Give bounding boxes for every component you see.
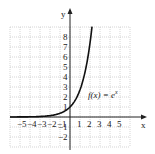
svg-text:6: 6 — [63, 52, 68, 62]
svg-text:4: 4 — [107, 119, 112, 129]
x-axis-label: x — [141, 120, 146, 130]
svg-text:2: 2 — [63, 92, 68, 102]
svg-text:4: 4 — [63, 72, 68, 82]
exponential-chart: −5−4−3−2−11234587654321−1−2 y x f(x) = e… — [0, 0, 155, 154]
svg-text:−2: −2 — [47, 119, 57, 129]
svg-text:1: 1 — [77, 119, 82, 129]
svg-text:8: 8 — [63, 32, 68, 42]
svg-text:3: 3 — [97, 119, 102, 129]
y-axis-label: y — [61, 9, 66, 19]
svg-text:1: 1 — [63, 102, 68, 112]
svg-text:−4: −4 — [27, 119, 37, 129]
svg-text:2: 2 — [87, 119, 92, 129]
svg-text:−5: −5 — [17, 119, 27, 129]
svg-text:5: 5 — [117, 119, 122, 129]
svg-text:5: 5 — [63, 62, 68, 72]
svg-text:−3: −3 — [37, 119, 47, 129]
svg-text:−2: −2 — [58, 132, 68, 142]
svg-text:7: 7 — [63, 42, 68, 52]
svg-text:3: 3 — [63, 82, 68, 92]
function-annotation: f(x) = ex — [88, 89, 118, 100]
svg-text:−1: −1 — [58, 122, 68, 132]
